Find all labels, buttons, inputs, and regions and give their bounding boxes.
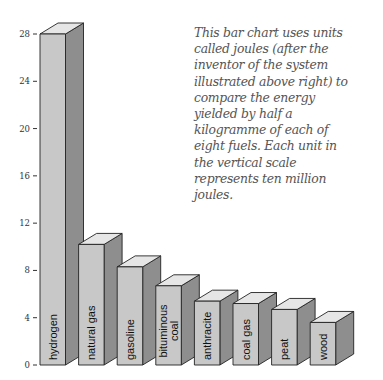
bar-peat: peat: [272, 298, 316, 365]
y-tick-label: 0: [25, 360, 30, 370]
caption-line: kilogramme of each of: [194, 122, 383, 138]
bar-label: coal: [168, 321, 180, 341]
chart-caption: This bar chart uses unitscalled joules (…: [194, 25, 383, 203]
y-tick-label: 24: [19, 76, 30, 86]
bar-anthracite: anthracite: [194, 290, 238, 365]
y-tick-label: 8: [25, 265, 30, 275]
y-tick-label: 12: [19, 218, 30, 228]
bar-hydrogen: hydrogen: [40, 23, 84, 365]
bar-natural-gas: natural gas: [79, 233, 123, 365]
bar-label: gasoline: [124, 319, 136, 360]
caption-line: inventor of the system: [194, 57, 383, 73]
caption-line: yielded by half a: [194, 106, 383, 122]
caption-line: the vertical scale: [194, 155, 383, 171]
y-tick-label: 4: [25, 313, 30, 323]
caption-line: represents ten million: [194, 171, 383, 187]
caption-line: illustrated above right) to: [194, 74, 383, 90]
y-tick-label: 16: [19, 171, 30, 181]
bar-label: coal gas: [240, 319, 252, 360]
bar-label: peat: [278, 339, 290, 360]
bar-label: anthracite: [201, 312, 213, 360]
bar-gasoline: gasoline: [117, 256, 161, 365]
caption-line: This bar chart uses units: [194, 25, 383, 41]
y-axis: 0481216202428: [19, 29, 37, 370]
bar-bituminous-coal: bituminouscoal: [156, 275, 200, 365]
caption-line: joules.: [194, 187, 383, 203]
bar-wood: wood: [310, 311, 354, 365]
caption-line: eight fuels. Each unit in: [194, 138, 383, 154]
bar-coal-gas: coal gas: [233, 293, 277, 365]
y-tick-label: 20: [19, 124, 30, 134]
caption-line: compare the energy: [194, 90, 383, 106]
y-tick-label: 28: [19, 29, 30, 39]
bar-label: wood: [317, 334, 329, 361]
bar-label: hydrogen: [47, 314, 59, 360]
caption-line: called joules (after the: [194, 41, 383, 57]
bar-label: natural gas: [85, 305, 97, 360]
